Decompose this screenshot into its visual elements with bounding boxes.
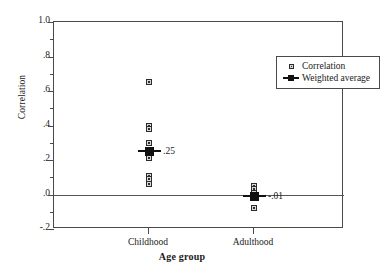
y-tick-mark bbox=[48, 195, 54, 196]
y-tick-mark bbox=[48, 91, 54, 92]
x-tick-label: Adulthood bbox=[213, 237, 293, 247]
y-tick-mark bbox=[48, 126, 54, 127]
y-tick-label: -.2 bbox=[20, 223, 50, 233]
data-point-correlation bbox=[146, 181, 152, 187]
legend-item-weighted-average: Weighted average bbox=[282, 72, 374, 84]
y-tick-label: .4 bbox=[20, 120, 50, 130]
y-tick-mark bbox=[48, 229, 54, 230]
y-axis-tick-labels: 1.0.8.6.4.2.0-.2 bbox=[16, 0, 50, 273]
y-minor-tick-mark bbox=[50, 177, 54, 178]
y-tick-label: .6 bbox=[20, 85, 50, 95]
y-tick-label: 1.0 bbox=[20, 16, 50, 26]
x-tick-mark bbox=[253, 228, 254, 234]
x-axis-title: Age group bbox=[0, 251, 364, 262]
weighted-average-value-label: -.01 bbox=[268, 191, 283, 201]
y-tick-mark bbox=[48, 160, 54, 161]
y-minor-tick-mark bbox=[50, 143, 54, 144]
y-tick-label: .0 bbox=[20, 189, 50, 199]
y-minor-tick-mark bbox=[50, 212, 54, 213]
x-tick-mark bbox=[148, 228, 149, 234]
open-square-icon bbox=[282, 60, 300, 72]
data-point-correlation bbox=[251, 205, 257, 211]
y-tick-label: .2 bbox=[20, 154, 50, 164]
y-tick-label: .8 bbox=[20, 51, 50, 61]
legend-label: Correlation bbox=[300, 61, 345, 71]
data-point-correlation bbox=[146, 140, 152, 146]
weighted-average-marker bbox=[145, 147, 154, 156]
y-minor-tick-mark bbox=[50, 39, 54, 40]
zero-reference-line bbox=[54, 195, 344, 196]
data-point-correlation bbox=[146, 79, 152, 85]
data-point-correlation bbox=[146, 155, 152, 161]
filled-square-bar-icon bbox=[282, 72, 300, 84]
legend-label: Weighted average bbox=[300, 73, 370, 83]
legend-item-correlation: Correlation bbox=[282, 60, 374, 72]
y-tick-mark bbox=[48, 22, 54, 23]
weighted-average-marker bbox=[250, 192, 259, 201]
weighted-average-value-label: .25 bbox=[163, 146, 175, 156]
legend: Correlation Weighted average bbox=[276, 56, 380, 89]
plot-area: Correlation Weighted average .25-.01 bbox=[53, 21, 343, 228]
data-point-correlation bbox=[146, 126, 152, 132]
y-minor-tick-mark bbox=[50, 108, 54, 109]
y-tick-mark bbox=[48, 57, 54, 58]
y-minor-tick-mark bbox=[50, 74, 54, 75]
x-tick-label: Childhood bbox=[108, 237, 188, 247]
